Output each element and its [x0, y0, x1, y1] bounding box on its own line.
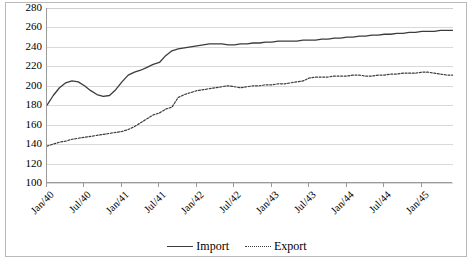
series-line-export [47, 72, 453, 146]
series-lines [47, 8, 453, 183]
chart-container: 100120140160180200220240260280 Jan/40Jul… [0, 0, 474, 262]
x-axis-tick [46, 183, 47, 187]
y-axis-tick-label: 260 [0, 21, 42, 32]
y-axis-tick-label: 100 [0, 177, 42, 188]
x-axis-tick [121, 183, 122, 187]
gridline [47, 183, 453, 184]
x-axis-tick [83, 183, 84, 187]
chart-legend: ImportExport [0, 238, 474, 253]
legend-item-export[interactable]: Export [245, 238, 307, 253]
x-axis-tick [421, 183, 422, 187]
legend-swatch-export [245, 243, 271, 250]
x-axis-tick [346, 183, 347, 187]
series-line-import [47, 30, 453, 105]
legend-swatch-import [167, 243, 193, 250]
y-axis-tick-label: 220 [0, 60, 42, 71]
x-axis-tick [308, 183, 309, 187]
legend-label: Export [274, 239, 307, 253]
y-axis-tick-label: 280 [0, 2, 42, 13]
y-axis-tick-label: 160 [0, 119, 42, 130]
x-axis-tick [158, 183, 159, 187]
y-axis-tick-label: 200 [0, 80, 42, 91]
x-axis-tick [233, 183, 234, 187]
y-axis-tick-label: 140 [0, 138, 42, 149]
legend-label: Import [196, 239, 229, 253]
plot-area [46, 8, 452, 183]
x-axis-tick [271, 183, 272, 187]
y-axis-tick-label: 180 [0, 99, 42, 110]
legend-item-import[interactable]: Import [167, 238, 229, 253]
x-axis-tick [196, 183, 197, 187]
y-axis-tick-label: 120 [0, 158, 42, 169]
x-axis-tick [383, 183, 384, 187]
y-axis-tick-label: 240 [0, 41, 42, 52]
